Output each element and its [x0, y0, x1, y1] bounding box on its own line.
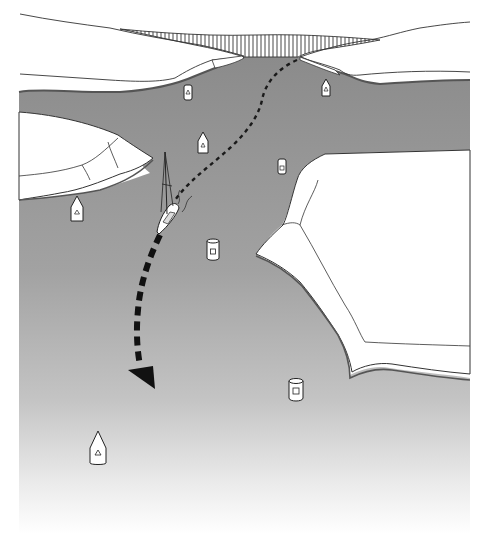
- buoy-can-7: [289, 379, 303, 402]
- buoy-can-1: [184, 85, 192, 100]
- buoy-can-6: [207, 239, 219, 260]
- buoy-can-4: [278, 159, 286, 174]
- bridge-structure: [120, 29, 380, 57]
- channel-diagram: [0, 0, 487, 534]
